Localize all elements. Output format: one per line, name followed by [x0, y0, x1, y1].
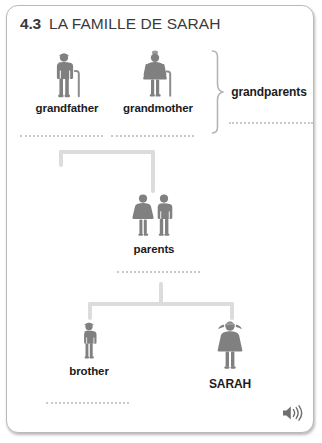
node-grandparents-group: grandparents [223, 85, 314, 99]
couple-icon [128, 192, 180, 240]
connector-children-horizontal [88, 302, 234, 306]
parents-answer-line[interactable] [117, 269, 200, 273]
page-title-text: LA FAMILLE DE SARAH [49, 15, 221, 33]
grandfather-figure [21, 49, 113, 99]
sarah-label: SARAH [195, 377, 265, 391]
connector-to-brother [88, 302, 92, 320]
section-number: 4.3 [20, 15, 41, 33]
worksheet-card: 4.3 LA FAMILLE DE SARAH [6, 5, 314, 433]
grandmother-label: grandmother [109, 102, 207, 114]
grandfather-label: grandfather [21, 102, 113, 114]
grandmother-figure [109, 49, 207, 99]
sarah-figure [195, 318, 265, 374]
connector-g1-horizontal [59, 150, 155, 154]
page-title: 4.3 LA FAMILLE DE SARAH [20, 15, 221, 33]
node-parents: parents [115, 192, 193, 255]
grandmother-answer-line[interactable] [111, 133, 194, 137]
grandparents-label: grandparents [223, 85, 314, 99]
connector-g1-to-parents [151, 150, 155, 193]
node-brother: brother [55, 320, 123, 377]
connector-g1-left-stub [59, 150, 63, 167]
grandfather-answer-line[interactable] [20, 133, 103, 137]
brother-label: brother [55, 365, 123, 377]
parents-label: parents [115, 243, 193, 255]
node-sarah: SARAH [195, 318, 265, 391]
boy-icon [72, 320, 106, 362]
grandparents-answer-line[interactable] [229, 120, 313, 124]
speaker-icon[interactable] [281, 403, 303, 423]
node-grandfather: grandfather [21, 49, 113, 114]
brother-answer-line[interactable] [46, 400, 129, 404]
node-grandmother: grandmother [109, 49, 207, 114]
parents-figure [115, 192, 193, 240]
elderly-woman-with-cane-icon [135, 49, 181, 99]
girl-icon [208, 318, 252, 374]
elderly-man-with-cane-icon [44, 49, 90, 99]
brother-figure [55, 320, 123, 362]
